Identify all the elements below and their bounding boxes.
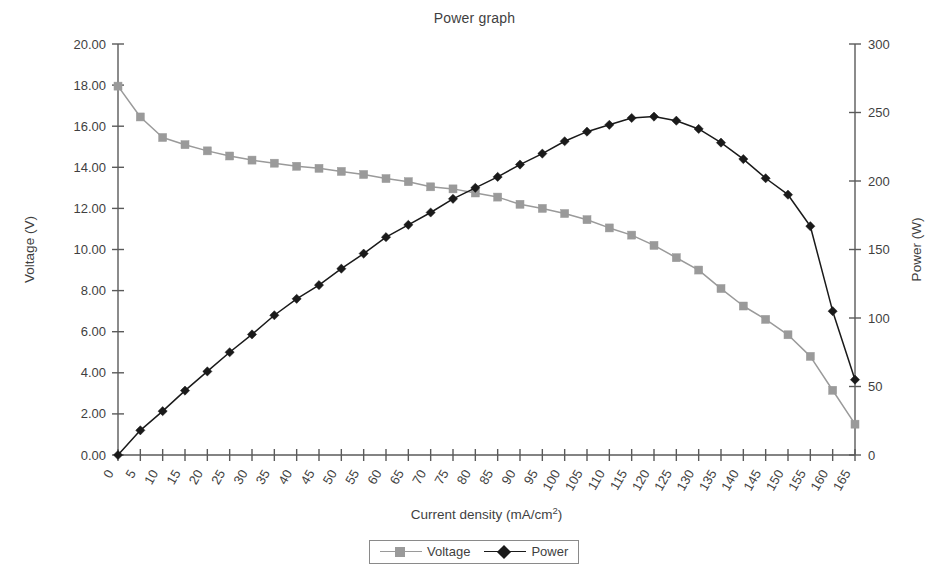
data-point-voltage [672,254,680,262]
data-point-power [538,149,547,158]
data-point-voltage [806,352,814,360]
data-point-voltage [382,175,390,183]
right-y-axis-tick-label: 300 [868,37,890,52]
data-point-voltage [695,266,703,274]
x-axis-tick-label: 45 [297,467,317,487]
data-point-voltage [516,200,524,208]
x-axis-tick-label: 145 [740,467,764,493]
x-axis-tick-label: 110 [585,467,608,492]
x-axis-tick-label: 55 [342,467,362,487]
data-point-voltage [538,204,546,212]
data-point-voltage [136,113,144,121]
x-axis-tick-label: 50 [320,467,340,487]
data-point-voltage [293,162,301,170]
x-axis-tick-label: 150 [763,467,787,493]
legend-point-swatch [395,547,405,557]
x-axis-tick-label: 25 [208,467,228,487]
data-point-voltage [270,159,278,167]
data-point-voltage [337,167,345,175]
x-axis-tick-label: 90 [498,467,518,487]
data-point-power [493,172,502,181]
data-point-voltage [583,216,591,224]
x-axis-tick-label: 0 [100,467,117,481]
left-y-axis-tick-label: 14.00 [73,160,106,175]
left-y-axis-tick-label: 4.00 [81,365,106,380]
data-point-voltage [605,224,613,232]
left-y-axis-tick-label: 10.00 [73,242,106,257]
right-y-axis-tick-label: 0 [868,448,875,463]
series-line-voltage [118,86,855,424]
legend-label: Voltage [427,544,470,559]
x-axis-tick-label: 30 [230,467,250,487]
left-y-axis-tick-label: 0.00 [81,448,106,463]
x-axis-tick-label: 160 [807,467,831,493]
x-axis-tick-label: 15 [163,467,183,487]
data-point-voltage [181,141,189,149]
data-point-voltage [762,315,770,323]
x-axis-tick-label: 165 [830,467,854,493]
x-axis-tick-label: 120 [629,467,653,493]
x-axis-tick-label: 130 [673,467,697,493]
data-point-voltage [449,185,457,193]
x-axis-title: Current density (mA/cm2) [411,505,563,523]
x-axis-tick-label: 105 [562,467,586,493]
data-point-voltage [203,147,211,155]
series-line-power [118,117,855,455]
data-point-voltage [159,134,167,142]
left-y-axis-tick-label: 18.00 [73,78,106,93]
x-axis-tick-label: 20 [186,467,206,487]
data-point-power [448,194,457,203]
left-y-axis-title: Voltage (V) [22,216,37,283]
data-point-voltage [829,386,837,394]
data-point-voltage [315,164,323,172]
data-point-voltage [851,420,859,428]
x-axis-tick-label: 40 [275,467,295,487]
x-axis-tick-label: 70 [409,467,429,487]
x-axis-tick-label: 35 [253,467,273,487]
left-y-axis-tick-label: 16.00 [73,119,106,134]
data-point-voltage [404,178,412,186]
data-point-power [560,137,569,146]
right-y-axis-tick-label: 150 [868,242,890,257]
data-point-power [582,127,591,136]
x-axis-tick-label: 10 [141,467,161,487]
x-axis-tick-label: 5 [122,467,139,481]
data-point-voltage [784,331,792,339]
data-point-power [694,124,703,133]
x-axis-tick-label: 100 [539,467,563,493]
legend-marker-square-icon [380,546,422,558]
chart-plot-area: 0.002.004.006.008.0010.0012.0014.0016.00… [0,0,949,586]
data-point-power [404,220,413,229]
right-y-axis-title: Power (W) [909,218,924,282]
data-point-voltage [650,241,658,249]
data-point-voltage [494,193,502,201]
x-axis-tick-label: 125 [651,467,675,493]
data-point-voltage [717,285,725,293]
x-axis-tick-label: 65 [387,467,407,487]
x-axis-tick-label: 155 [785,467,809,493]
left-y-axis-tick-label: 20.00 [73,37,106,52]
x-axis-tick-label: 135 [696,467,720,493]
chart-legend: VoltagePower [369,540,579,564]
data-point-voltage [360,170,368,178]
x-axis-tick-label: 140 [718,467,742,493]
data-point-voltage [248,156,256,164]
legend-label: Power [531,544,568,559]
data-point-voltage [114,82,122,90]
data-point-power [426,208,435,217]
legend-item-power[interactable]: Power [484,544,568,559]
data-point-power [806,222,815,231]
left-y-axis-tick-label: 2.00 [81,406,106,421]
power-graph-chart: Power graph 0.002.004.006.008.0010.0012.… [0,0,949,586]
left-y-axis-tick-label: 8.00 [81,283,106,298]
data-point-power [850,375,859,384]
data-point-power [627,113,636,122]
x-axis-tick-label: 95 [521,467,541,487]
data-point-power [828,307,837,316]
legend-item-voltage[interactable]: Voltage [380,544,470,559]
left-y-axis-tick-label: 12.00 [73,201,106,216]
right-y-axis-tick-label: 100 [868,311,890,326]
right-y-axis-tick-label: 200 [868,174,890,189]
data-point-voltage [427,183,435,191]
x-axis-tick-label: 75 [431,467,451,487]
